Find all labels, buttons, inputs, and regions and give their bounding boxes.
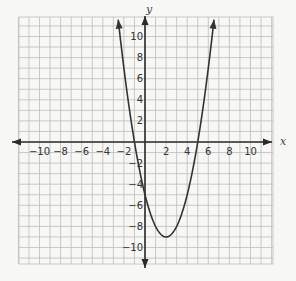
x-axis-arrow-left-icon [12,139,21,146]
y-tick-label: −2 [128,158,143,169]
y-tick-label: −8 [128,221,143,232]
x-axis-label: x [280,135,287,148]
curve-arrow-icon [116,20,123,29]
x-tick-label: −2 [117,146,132,157]
y-axis-arrow-down-icon [142,259,149,268]
y-tick-label: 10 [130,31,143,42]
x-axis-arrow-right-icon [263,139,272,146]
x-tick-label: −10 [29,146,50,157]
x-tick-label: −8 [53,146,68,157]
y-tick-label: −10 [122,242,143,253]
x-tick-label: 8 [226,146,232,157]
x-tick-label: 4 [184,146,190,157]
y-tick-label: 4 [137,94,143,105]
x-tick-label: 2 [163,146,169,157]
y-tick-label: −4 [128,179,143,190]
y-tick-label: 8 [137,52,143,63]
x-tick-label: 10 [244,146,257,157]
coordinate-plane: −10−8−6−4−2246810108642−2−4−6−8−10 x y [0,0,296,281]
curve-arrow-icon [210,20,217,29]
y-axis-label: y [145,3,153,16]
x-tick-label: −6 [74,146,89,157]
y-tick-label: 6 [137,73,143,84]
y-tick-label: 2 [137,115,143,126]
x-tick-label: −4 [95,146,110,157]
x-tick-label: 6 [205,146,211,157]
y-tick-label: −6 [128,200,143,211]
